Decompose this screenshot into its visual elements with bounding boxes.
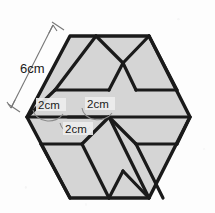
label-segment-c: 2cm xyxy=(65,123,87,135)
label-segment-b: 2cm xyxy=(87,98,109,110)
dimension-tick-bottom xyxy=(8,104,20,112)
label-side-length: 6cm xyxy=(20,61,45,76)
label-segment-a: 2cm xyxy=(38,99,60,111)
dimension-arrow-top xyxy=(49,25,57,33)
hexagon-diagram-svg: 6cm 2cm 2cm 2cm xyxy=(0,0,215,213)
dimension-arrow-bottom xyxy=(7,100,15,108)
hexagon-diagram-figure: 6cm 2cm 2cm 2cm xyxy=(0,0,215,213)
